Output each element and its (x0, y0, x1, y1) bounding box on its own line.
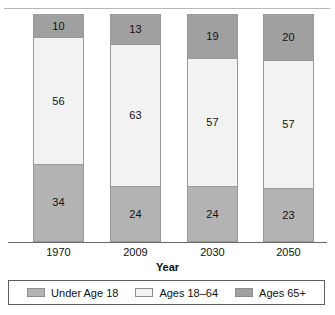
segment-value-label: 57 (206, 117, 218, 128)
legend-swatch-icon (135, 288, 153, 297)
segment-ages-65-plus[interactable]: 10 (34, 15, 83, 37)
plot-area: 10 56 34 13 63 24 (0, 14, 335, 242)
legend-label: Under Age 18 (51, 287, 118, 299)
segment-under-age-18[interactable]: 23 (264, 188, 313, 241)
segment-ages-18-64[interactable]: 63 (111, 44, 160, 186)
segment-value-label: 24 (129, 209, 141, 220)
segment-value-label: 24 (206, 209, 218, 220)
segment-value-label: 10 (52, 21, 64, 32)
x-axis-title: Year (0, 261, 335, 273)
x-tick-label-2030: 2030 (187, 246, 238, 258)
bar-group-2030: 19 57 24 (187, 14, 238, 242)
segment-ages-65-plus[interactable]: 20 (264, 15, 313, 60)
segment-under-age-18[interactable]: 24 (188, 186, 237, 241)
segment-ages-18-64[interactable]: 57 (188, 58, 237, 187)
bar-group-1970: 10 56 34 (33, 14, 84, 242)
segment-value-label: 57 (282, 119, 294, 130)
bar-group-2050: 20 57 23 (263, 14, 314, 242)
bar-group-2009: 13 63 24 (110, 14, 161, 242)
stacked-bar[interactable]: 20 57 23 (263, 14, 314, 242)
x-tick-label-2009: 2009 (110, 246, 161, 258)
segment-under-age-18[interactable]: 24 (111, 186, 160, 241)
chart-legend: Under Age 18 Ages 18–64 Ages 65+ (8, 280, 325, 305)
segment-ages-18-64[interactable]: 57 (264, 60, 313, 189)
stacked-bar[interactable]: 19 57 24 (187, 14, 238, 242)
segment-value-label: 63 (129, 110, 141, 121)
stacked-bar[interactable]: 13 63 24 (110, 14, 161, 242)
stacked-bar[interactable]: 10 56 34 (33, 14, 84, 242)
segment-value-label: 20 (282, 32, 294, 43)
segment-value-label: 19 (206, 31, 218, 42)
stacked-bar-chart: 10 56 34 13 63 24 (0, 0, 335, 315)
segment-value-label: 23 (282, 210, 294, 221)
segment-ages-18-64[interactable]: 56 (34, 37, 83, 163)
segment-under-age-18[interactable]: 34 (34, 164, 83, 241)
legend-item-ages-65-plus[interactable]: Ages 65+ (235, 287, 306, 299)
legend-item-ages-18-64[interactable]: Ages 18–64 (135, 287, 218, 299)
x-tick-label-1970: 1970 (33, 246, 84, 258)
legend-item-under-age-18[interactable]: Under Age 18 (27, 287, 118, 299)
segment-value-label: 13 (129, 24, 141, 35)
x-tick-label-2050: 2050 (263, 246, 314, 258)
legend-swatch-icon (27, 288, 45, 297)
legend-swatch-icon (235, 288, 253, 297)
segment-ages-65-plus[interactable]: 13 (111, 15, 160, 44)
segment-value-label: 34 (52, 197, 64, 208)
segment-value-label: 56 (52, 96, 64, 107)
legend-label: Ages 65+ (259, 287, 306, 299)
legend-label: Ages 18–64 (159, 287, 218, 299)
x-axis-line (8, 242, 327, 243)
segment-ages-65-plus[interactable]: 19 (188, 15, 237, 58)
